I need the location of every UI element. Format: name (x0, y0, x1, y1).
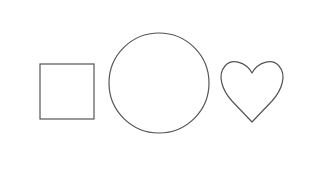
square-shape (40, 64, 94, 119)
shapes-canvas (0, 0, 317, 174)
circle-shape (109, 33, 209, 133)
heart-shape (221, 62, 283, 122)
